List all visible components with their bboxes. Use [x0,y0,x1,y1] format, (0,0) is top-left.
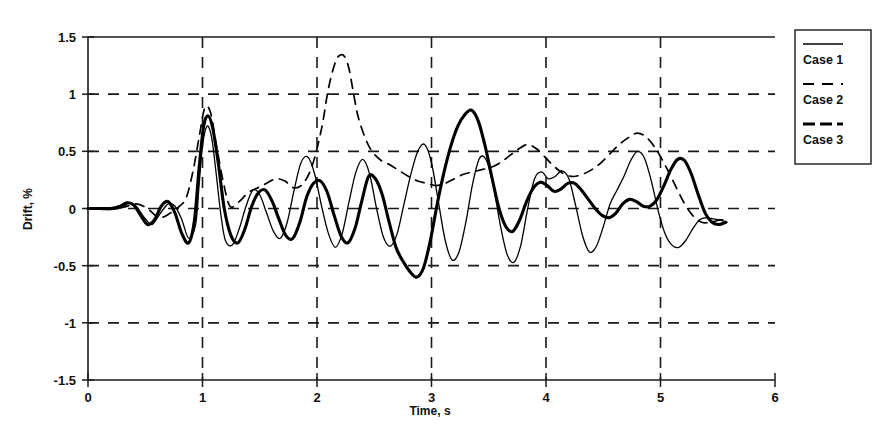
legend-label-case-3: Case 3 [803,133,843,147]
legend: Case 1 Case 2 Case 3 [795,30,871,164]
y-tick-label: -0.5 [54,259,76,274]
legend-label-case-1: Case 1 [803,53,843,67]
y-tick-label: -1.5 [54,373,76,388]
x-tick-label: 2 [313,390,320,405]
x-tick-label: 0 [84,390,91,405]
x-tick-label: 5 [657,390,664,405]
y-tick-label: 1 [69,87,76,102]
x-tick-label: 1 [199,390,206,405]
drift-vs-time-chart: -1.5-1-0.500.511.5 0123456 Drift, % Time… [0,0,883,428]
y-tick-label: 1.5 [58,30,76,45]
x-tick-label: 4 [542,390,550,405]
chart-background [0,0,883,428]
y-tick-label: 0.5 [58,144,76,159]
x-tick-label: 3 [428,390,435,405]
x-axis-title: Time, s [409,404,450,418]
y-axis-title: Drift, % [21,188,35,230]
y-tick-label: -1 [64,316,76,331]
x-tick-label: 6 [771,390,778,405]
y-tick-label: 0 [69,202,76,217]
legend-label-case-2: Case 2 [803,93,843,107]
